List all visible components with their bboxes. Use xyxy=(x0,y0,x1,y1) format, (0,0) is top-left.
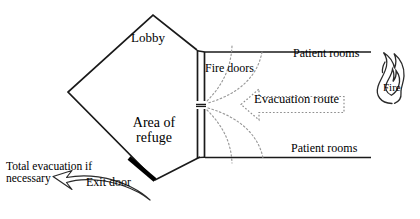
label-fire-doors: Fire doors xyxy=(205,62,254,74)
label-area-of-refuge-line2: refuge xyxy=(136,130,172,145)
fire-icon xyxy=(377,53,404,104)
label-area-of-refuge-line1: Area of xyxy=(133,115,175,130)
label-patient-rooms-top: Patient rooms xyxy=(293,47,359,59)
label-patient-rooms-bottom: Patient rooms xyxy=(291,142,357,154)
label-exit-door: Exit door xyxy=(86,176,131,188)
diagram-canvas xyxy=(0,0,420,219)
evacuation-diagram: Lobby Area of refuge Fire doors Patient … xyxy=(0,0,420,219)
exit-door-marker xyxy=(129,158,155,180)
label-evacuation-route: Evacuation route xyxy=(254,93,339,106)
label-fire: Fire xyxy=(383,82,401,93)
label-area-of-refuge: Area of refuge xyxy=(118,115,190,145)
label-lobby: Lobby xyxy=(131,31,165,44)
